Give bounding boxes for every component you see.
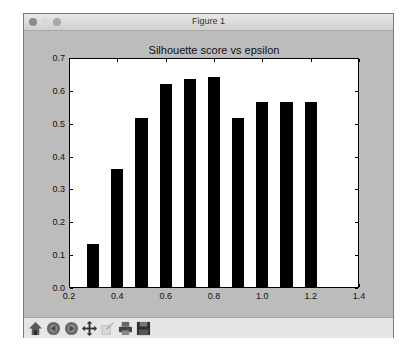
y-tick-mark	[70, 58, 73, 59]
x-tick-mark	[117, 59, 118, 62]
back-arrow-icon	[46, 321, 61, 336]
subplots-icon	[118, 321, 133, 336]
x-tick-label: 1.4	[353, 291, 366, 301]
bar	[256, 102, 268, 287]
y-tick-label: 0.6	[52, 86, 65, 96]
plot-area[interactable]	[69, 58, 359, 288]
bar	[87, 244, 99, 287]
y-tick-mark	[355, 288, 358, 289]
y-tick-mark	[355, 222, 358, 223]
x-tick-mark	[69, 284, 70, 287]
y-tick-mark	[70, 157, 73, 158]
x-tick-mark	[262, 284, 263, 287]
title-bar[interactable]: Figure 1	[24, 14, 393, 31]
x-tick-mark	[262, 59, 263, 62]
y-tick-label: 0.3	[52, 184, 65, 194]
y-tick-mark	[70, 255, 73, 256]
home-icon	[28, 321, 43, 336]
y-tick-mark	[355, 124, 358, 125]
bar	[232, 118, 244, 287]
figure-canvas[interactable]: Silhouette score vs epsilon 0.00.10.20.3…	[24, 31, 393, 317]
zoom-button[interactable]	[99, 320, 115, 336]
x-tick-label: 0.4	[111, 291, 124, 301]
bar	[111, 169, 123, 287]
x-tick-label: 0.2	[63, 291, 76, 301]
y-tick-label: 0.4	[52, 152, 65, 162]
x-tick-label: 0.6	[159, 291, 172, 301]
navigation-toolbar	[24, 317, 393, 338]
y-tick-mark	[355, 157, 358, 158]
x-tick-mark	[214, 284, 215, 287]
y-tick-label: 0.1	[52, 250, 65, 260]
x-tick-mark	[166, 59, 167, 62]
save-button[interactable]	[135, 320, 151, 336]
configure-subplots-button[interactable]	[117, 320, 133, 336]
y-tick-mark	[70, 222, 73, 223]
bar	[135, 118, 147, 287]
zoom-rect-icon	[100, 321, 115, 336]
save-floppy-icon	[136, 321, 151, 336]
back-button[interactable]	[45, 320, 61, 336]
bar	[160, 84, 172, 287]
bar	[305, 102, 317, 287]
forward-arrow-icon	[64, 321, 79, 336]
move-arrows-icon	[82, 321, 97, 336]
y-tick-mark	[70, 124, 73, 125]
x-tick-mark	[311, 59, 312, 62]
y-tick-mark	[355, 189, 358, 190]
y-tick-mark	[70, 288, 73, 289]
x-tick-mark	[117, 284, 118, 287]
x-tick-label: 1.2	[304, 291, 317, 301]
x-tick-mark	[166, 284, 167, 287]
bar	[280, 102, 292, 287]
y-tick-mark	[355, 58, 358, 59]
x-tick-mark	[69, 59, 70, 62]
y-tick-mark	[70, 91, 73, 92]
bar	[208, 77, 220, 287]
y-tick-mark	[355, 255, 358, 256]
x-tick-mark	[359, 59, 360, 62]
x-tick-mark	[311, 284, 312, 287]
forward-button[interactable]	[63, 320, 79, 336]
home-button[interactable]	[27, 320, 43, 336]
pan-button[interactable]	[81, 320, 97, 336]
y-tick-mark	[70, 189, 73, 190]
y-tick-mark	[355, 91, 358, 92]
bar	[184, 79, 196, 287]
x-tick-label: 0.8	[208, 291, 221, 301]
x-tick-mark	[214, 59, 215, 62]
figure-window: Figure 1 Silhouette score vs epsilon 0.0…	[23, 13, 394, 338]
x-tick-label: 1.0	[256, 291, 269, 301]
window-title: Figure 1	[24, 16, 393, 26]
y-tick-label: 0.5	[52, 119, 65, 129]
chart-title: Silhouette score vs epsilon	[69, 44, 359, 56]
y-tick-label: 0.2	[52, 217, 65, 227]
y-tick-label: 0.7	[52, 53, 65, 63]
x-tick-mark	[359, 284, 360, 287]
